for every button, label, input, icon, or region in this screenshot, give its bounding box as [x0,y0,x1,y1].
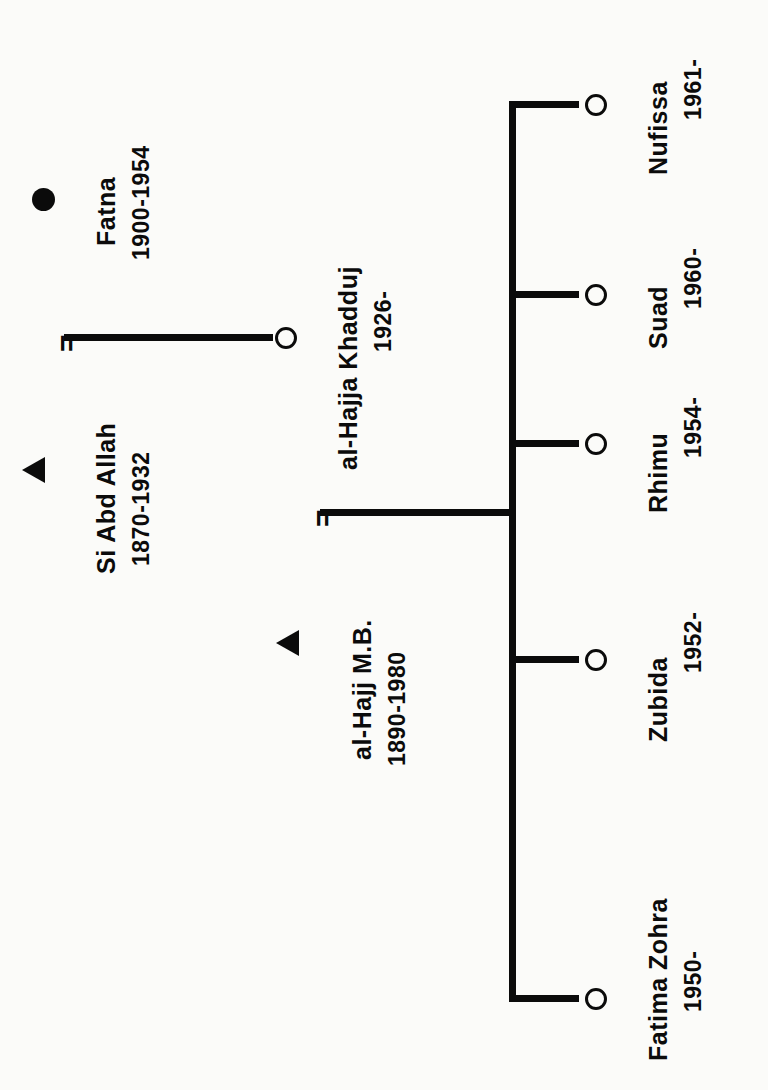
person-name-suad: Suad [644,286,673,349]
open-circle-icon-nufissa [585,94,607,116]
descent-branch-suad [509,291,579,298]
person-dates-al-hajja-khadduj: 1926- [370,291,397,352]
open-circle-icon-rhimu [585,433,607,455]
person-name-al-hajj-mb: al-Hajj M.B. [348,619,377,760]
person-dates-nufissa: 1961- [680,59,707,120]
person-dates-fatna: 1900-1954 [128,146,155,261]
triangle-icon-si-abd-allah [22,457,45,483]
person-dates-al-hajj-mb: 1890-1980 [384,652,411,767]
open-circle-icon-zubida [585,649,607,671]
open-circle-icon-suad [585,284,607,306]
person-name-zubida: Zubida [644,657,673,742]
person-dates-suad: 1960- [680,248,707,309]
filled-circle-icon-fatna [32,188,55,211]
triangle-icon-al-hajj-mb [276,630,299,656]
descent-branch-zubida [509,656,579,663]
sibling-descent-bar [509,101,516,1002]
person-name-al-hajja-khadduj: al-Hajja Khadduj [334,266,363,470]
person-name-si-abd-allah: Si Abd Allah [92,423,121,574]
person-dates-rhimu: 1954- [680,397,707,458]
marriage-line-gen2 [320,509,516,516]
descent-branch-rhimu [509,440,579,447]
descent-branch-nufissa [509,101,579,108]
open-circle-icon-al-hajja-khadduj [275,327,297,349]
person-dates-si-abd-allah: 1870-1932 [128,452,155,567]
person-dates-zubida: 1952- [680,612,707,673]
person-name-fatna: Fatna [92,177,121,246]
person-name-fatima-zohra: Fatima Zohra [644,898,673,1061]
descent-branch-fatima-zohra [509,995,579,1002]
person-dates-fatima-zohra: 1950- [680,951,707,1012]
person-name-nufissa: Nufissa [644,81,673,175]
person-name-rhimu: Rhimu [644,433,673,513]
marriage-line-gen1 [64,334,273,341]
open-circle-icon-fatima-zohra [585,988,607,1010]
kinship-diagram-canvas: Fatna 1900-1954 = Si Abd Allah 1870-1932… [0,0,768,1090]
